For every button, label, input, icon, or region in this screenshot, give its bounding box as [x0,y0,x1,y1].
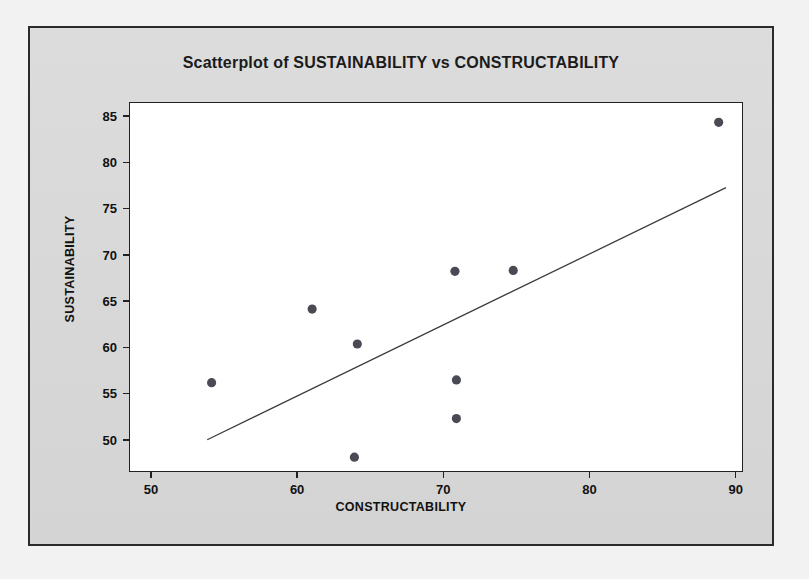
data-point [509,266,518,275]
data-point [452,375,461,384]
x-axis-tick-label: 50 [144,482,158,497]
x-axis-tick-label: 90 [728,482,742,497]
y-axis-tick-label: 55 [71,386,117,401]
chart-title: Scatterplot of SUSTAINABILITY vs CONSTRU… [30,54,772,72]
x-axis-tick-mark [735,472,737,478]
data-point [450,267,459,276]
data-point [308,305,317,314]
x-axis-tick-label: 60 [290,482,304,497]
y-axis-tick-label: 80 [71,155,117,170]
regression-line [207,188,726,440]
y-axis-tick-mark [123,347,129,349]
plot-area [129,102,743,472]
data-point [350,453,359,462]
x-axis-tick-label: 80 [582,482,596,497]
y-axis-title: SUSTAINABILITY [63,169,77,369]
y-axis-tick-mark [123,208,129,210]
data-point [714,118,723,127]
x-axis-tick-mark [589,472,591,478]
y-axis-tick-label: 50 [71,432,117,447]
scatter-plot-canvas [130,103,742,471]
data-point [452,414,461,423]
x-axis-tick-label: 70 [436,482,450,497]
screenshot-root: Scatterplot of SUSTAINABILITY vs CONSTRU… [0,0,809,579]
y-axis-tick-mark [123,393,129,395]
x-axis-tick-mark [296,472,298,478]
y-axis-tick-label: 70 [71,247,117,262]
x-axis-title: CONSTRUCTABILITY [30,500,772,514]
y-axis-tick-mark [123,162,129,164]
y-axis-tick-mark [123,439,129,441]
y-axis-tick-label: 65 [71,293,117,308]
y-axis-tick-label: 85 [71,108,117,123]
y-axis-tick-mark [123,115,129,117]
y-axis-tick-label: 60 [71,340,117,355]
x-axis-tick-mark [443,472,445,478]
y-axis-tick-mark [123,254,129,256]
figure-frame: Scatterplot of SUSTAINABILITY vs CONSTRU… [28,26,774,546]
data-point [207,378,216,387]
x-axis-tick-mark [150,472,152,478]
data-point [353,339,362,348]
y-axis-tick-mark [123,300,129,302]
y-axis-tick-label: 75 [71,201,117,216]
